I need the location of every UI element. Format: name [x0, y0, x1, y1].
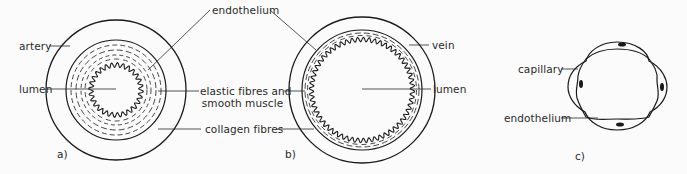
- vein-middle-wall: [302, 30, 422, 150]
- label-endothelium-shared: endothelium: [212, 4, 279, 16]
- caption-b: b): [285, 148, 296, 160]
- artery-muscle-layer-4: [85, 59, 147, 121]
- diagram-drawing: [0, 0, 687, 174]
- artery-outer-wall: [46, 20, 186, 160]
- blood-vessel-diagram: artery lumen endothelium elastic fibres …: [0, 0, 687, 174]
- vein-muscle-layer-1: [305, 33, 419, 147]
- artery-endothelium-wavy: [89, 63, 144, 118]
- capillary-endothelium-wall: [576, 49, 658, 120]
- label-vein-lumen: lumen: [433, 83, 466, 95]
- capillary-nucleus-left: [579, 80, 583, 88]
- caption-c: c): [575, 150, 585, 162]
- vein-endothelium-wavy: [309, 37, 414, 142]
- leader-endothelium-vein: [270, 10, 316, 50]
- artery-cross-section: [46, 20, 186, 160]
- label-elastic-fibres-line1: elastic fibres and: [200, 85, 285, 97]
- vein-cross-section: [289, 17, 435, 163]
- label-collagen-fibres: collagen fibres: [205, 123, 283, 135]
- label-capillary: capillary: [518, 63, 564, 75]
- caption-a: a): [57, 148, 68, 160]
- label-capillary-endothelium: endothelium: [504, 112, 571, 124]
- artery-muscle-layer-1: [71, 45, 161, 135]
- label-elastic-fibres-line2: smooth muscle: [200, 97, 285, 109]
- label-artery-lumen: lumen: [19, 83, 52, 95]
- vein-muscle-layer-2: [308, 36, 417, 145]
- capillary-nucleus-right: [660, 83, 664, 91]
- artery-muscle-layer-2: [76, 50, 156, 130]
- capillary-nucleus-top: [618, 43, 626, 47]
- capillary-cross-section: [568, 42, 667, 130]
- capillary-nucleus-bottom: [616, 123, 624, 127]
- label-artery: artery: [19, 40, 51, 52]
- label-vein: vein: [432, 39, 455, 51]
- capillary-outer-wall: [568, 42, 667, 130]
